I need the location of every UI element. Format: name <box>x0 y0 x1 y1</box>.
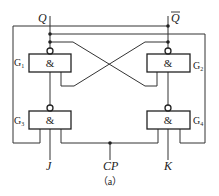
svg-text:G3: G3 <box>14 115 24 127</box>
inverter-bubble-icon <box>47 105 53 111</box>
gate-g4: & G4 <box>147 105 203 129</box>
caption: （a） <box>98 176 122 187</box>
label-k: K <box>163 159 173 173</box>
gate-g1: & G1 <box>14 48 71 72</box>
jk-flip-flop-diagram: & G1 & G2 & G3 & G4 Q Q J CP K （a） <box>0 0 219 196</box>
junction-dot <box>166 24 170 28</box>
inverter-bubble-icon <box>165 48 171 54</box>
svg-text:&: & <box>46 114 55 126</box>
label-q-bar: Q <box>171 11 180 25</box>
junction-dot <box>108 141 112 145</box>
svg-text:G2: G2 <box>193 60 203 72</box>
label-q: Q <box>38 11 47 25</box>
inverter-bubble-icon <box>165 105 171 111</box>
svg-text:&: & <box>164 114 173 126</box>
svg-text:G1: G1 <box>14 57 24 69</box>
junction-dot <box>48 32 52 36</box>
gate-g3: & G3 <box>14 105 71 129</box>
label-cp: CP <box>103 159 119 173</box>
label-j: J <box>46 159 52 173</box>
svg-text:G4: G4 <box>193 115 203 127</box>
wire-cp-bus <box>61 129 158 143</box>
gate-g2: & G2 <box>147 48 203 72</box>
junction-dot <box>48 40 52 44</box>
junction-dot <box>166 40 170 44</box>
svg-text:&: & <box>164 57 173 69</box>
inverter-bubble-icon <box>47 48 53 54</box>
svg-text:&: & <box>46 57 55 69</box>
